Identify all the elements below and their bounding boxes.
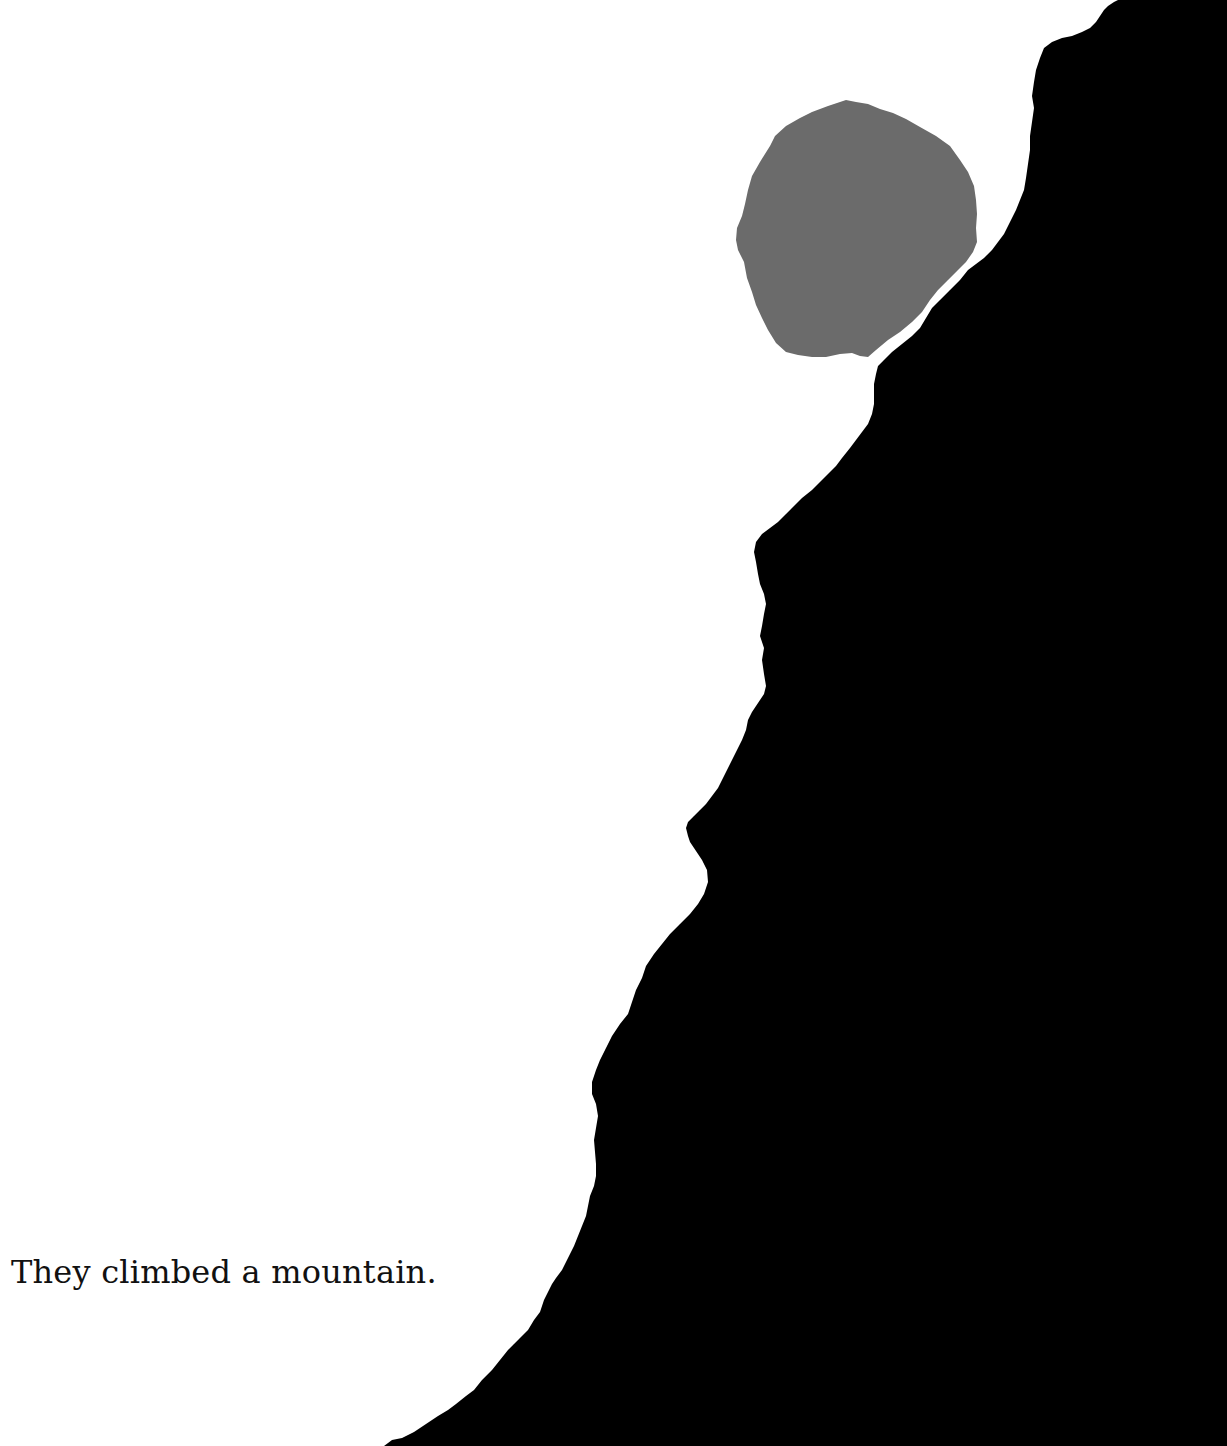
book-page: They climbed a mountain.	[0, 0, 1227, 1446]
illustration	[0, 0, 1227, 1446]
page-caption: They climbed a mountain.	[11, 1256, 437, 1288]
